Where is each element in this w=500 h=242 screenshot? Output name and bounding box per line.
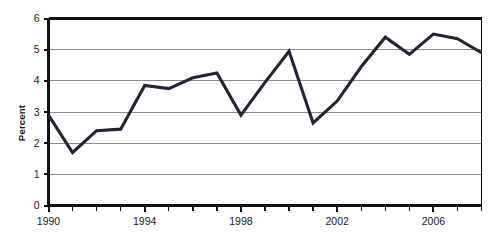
y-tick-label-0: 0 (34, 199, 40, 211)
y-tick-label-2: 2 (34, 137, 40, 149)
x-axis-tick-labels: 19901994199820022006 (37, 215, 445, 227)
y-tick-label-5: 5 (34, 43, 40, 55)
y-axis-title: Percent (16, 104, 27, 141)
y-axis-title-text: Percent (16, 104, 27, 141)
chart-canvas: 0123456 19901994199820022006 Percent (0, 0, 500, 242)
x-tick-label-2002: 2002 (325, 215, 349, 227)
data-series-percent (49, 34, 482, 152)
x-tick-label-1990: 1990 (37, 215, 61, 227)
y-tick-label-3: 3 (34, 106, 40, 118)
x-tick-label-1998: 1998 (229, 215, 253, 227)
y-tick-label-1: 1 (34, 168, 40, 180)
data-line-percent (49, 34, 482, 152)
x-tick-label-1994: 1994 (133, 215, 157, 227)
y-tick-label-4: 4 (34, 74, 40, 86)
y-axis-tick-labels: 0123456 (34, 12, 40, 211)
x-tick-label-2006: 2006 (422, 215, 446, 227)
gridlines (49, 50, 482, 175)
line-chart: 0123456 19901994199820022006 Percent (0, 0, 500, 242)
y-tick-label-6: 6 (34, 12, 40, 24)
